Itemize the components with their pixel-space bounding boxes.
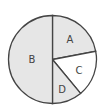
pie-chart: A B C D <box>0 0 98 108</box>
label-b: B <box>29 54 36 65</box>
label-c: C <box>76 65 83 76</box>
label-d: D <box>58 84 66 95</box>
label-a: A <box>67 34 74 45</box>
